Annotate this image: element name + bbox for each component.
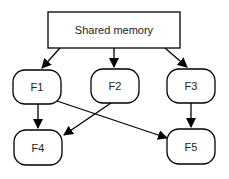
shared-memory-node: Shared memory (48, 12, 180, 48)
edge-shared-f1 (42, 48, 60, 68)
shared-memory-label: Shared memory (75, 24, 154, 36)
node-f5-label: F5 (185, 141, 198, 153)
node-f5: F5 (167, 129, 215, 164)
node-f1-label: F1 (31, 81, 44, 93)
diagram-canvas: Shared memory F1 F2 F3 F4 F5 (0, 0, 229, 179)
edge-f1-f5 (57, 101, 167, 138)
node-f4-label: F4 (32, 142, 45, 154)
node-f2-label: F2 (109, 80, 122, 92)
edge-f2-f4 (64, 103, 111, 135)
node-f3: F3 (167, 69, 215, 103)
node-f1: F1 (13, 70, 61, 104)
node-f2: F2 (91, 69, 139, 103)
node-f3-label: F3 (185, 80, 198, 92)
node-f4: F4 (14, 130, 62, 165)
edge-shared-f3 (165, 48, 187, 67)
